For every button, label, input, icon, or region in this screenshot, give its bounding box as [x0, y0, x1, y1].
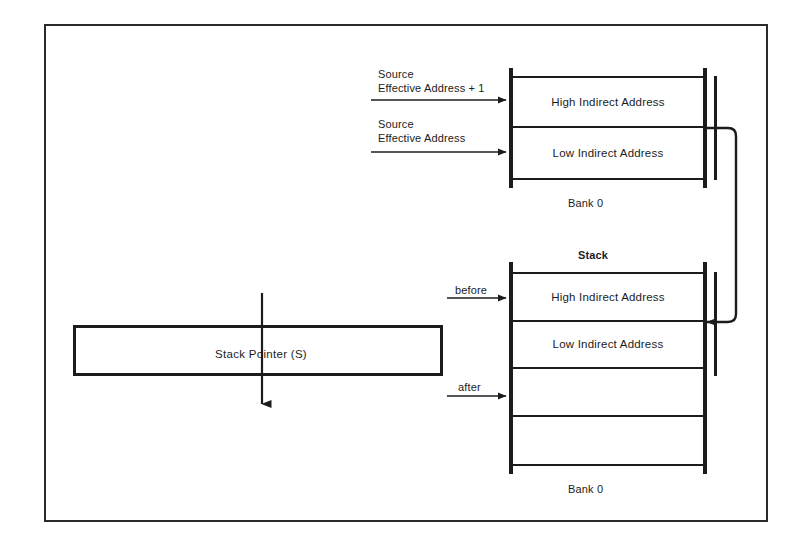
source-arrow-1-line1: Source	[378, 67, 414, 81]
memory-row-label: High Indirect Address	[551, 96, 665, 108]
source-arrow-2-line1: Source	[378, 117, 414, 131]
lower-block-outer-bracket	[714, 272, 717, 376]
memory-row	[513, 417, 703, 465]
stack-header: Stack	[578, 248, 608, 262]
lower-memory-block: High Indirect Address Low Indirect Addre…	[511, 272, 705, 466]
upper-block-outer-bracket	[714, 76, 717, 180]
diagram-canvas: High Indirect Address Low Indirect Addre…	[0, 0, 811, 549]
memory-row: High Indirect Address	[513, 274, 703, 322]
source-arrow-1-line2: Effective Address + 1	[378, 81, 485, 95]
stack-pointer-register: Stack Pointer (S)	[73, 325, 443, 376]
memory-row: High Indirect Address	[513, 78, 703, 128]
upper-memory-block: High Indirect Address Low Indirect Addre…	[511, 76, 705, 180]
after-arrow-label: after	[458, 380, 481, 394]
memory-row: Low Indirect Address	[513, 322, 703, 370]
memory-row-label: High Indirect Address	[551, 291, 665, 303]
memory-row-label: Low Indirect Address	[553, 147, 664, 159]
memory-row: Low Indirect Address	[513, 128, 703, 178]
stack-pointer-label: Stack Pointer (S)	[76, 328, 446, 379]
source-arrow-2-line2: Effective Address	[378, 131, 465, 145]
upper-block-caption: Bank 0	[568, 196, 603, 210]
before-arrow-label: before	[455, 283, 487, 297]
memory-row-label: Low Indirect Address	[553, 338, 664, 350]
memory-row	[513, 369, 703, 417]
lower-block-caption: Bank 0	[568, 482, 603, 496]
